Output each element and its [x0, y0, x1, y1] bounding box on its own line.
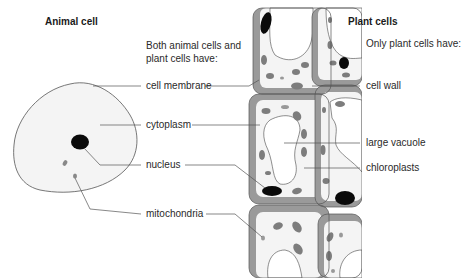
both-have-line1: Both animal cells and — [146, 40, 241, 52]
label-cell-wall: cell wall — [366, 80, 401, 92]
plant-cells-heading: Plant cells — [348, 16, 397, 27]
animal-nucleus — [71, 135, 89, 150]
label-cytoplasm: cytoplasm — [146, 119, 191, 131]
both-have-line2: plant cells have: — [146, 53, 218, 65]
only-plant-have: Only plant cells have: — [366, 38, 461, 50]
label-cell-membrane: cell membrane — [146, 80, 212, 92]
label-chloroplasts: chloroplasts — [366, 162, 419, 174]
label-large-vacuole: large vacuole — [366, 137, 425, 149]
animal-cell-heading: Animal cell — [45, 16, 98, 27]
label-mitochondria: mitochondria — [146, 208, 203, 220]
plant-cells — [249, 0, 370, 278]
label-nucleus: nucleus — [146, 159, 180, 171]
animal-mitochondrion-2 — [73, 174, 77, 179]
